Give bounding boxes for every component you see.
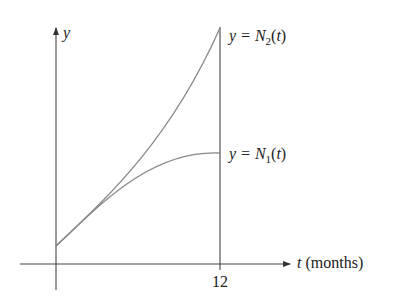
x-tick-12: 12 [212,273,228,290]
x-axis-label: t(months) [297,254,363,272]
curve-n2 [56,28,220,246]
y-axis-label: y [61,24,71,42]
n2-label: y = N2(t) [227,27,286,47]
population-growth-diagram: y y = N2(t) y = N1(t) t(months) 12 [0,0,400,303]
n1-label: y = N1(t) [227,145,286,165]
curve-n1 [56,153,220,246]
